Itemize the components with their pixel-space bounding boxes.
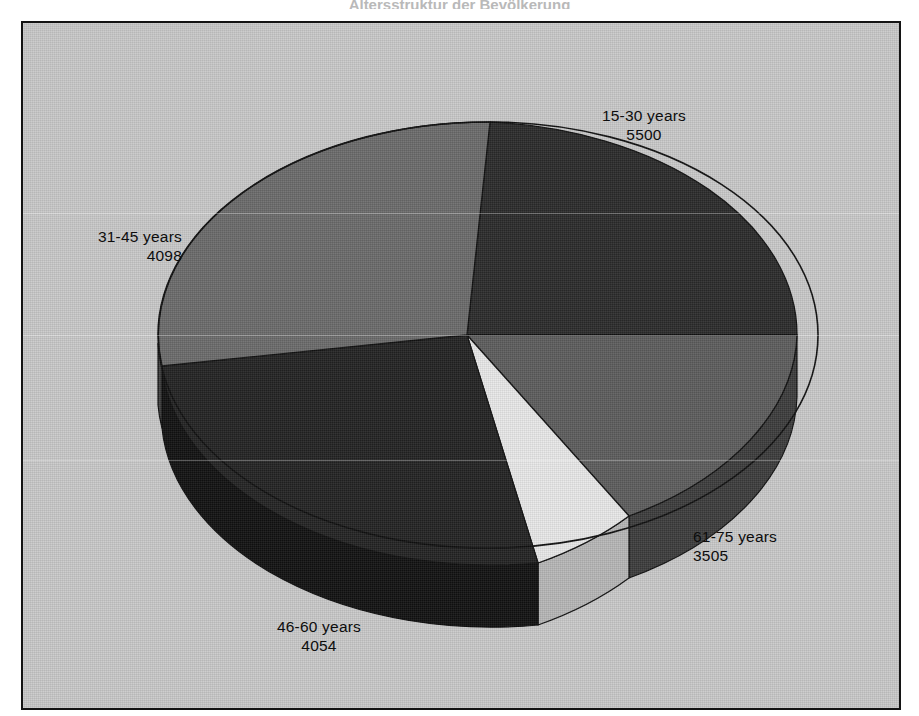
label-61-75-years: 61-75 years 3505: [693, 527, 873, 565]
chart-title-cropped: Altersstruktur der Bevölkerung: [0, 0, 919, 9]
pie-chart-graphic: [23, 23, 901, 710]
pie-chart-page: Altersstruktur der Bevölkerung: [0, 0, 919, 716]
slice-31-45-years[interactable]: [158, 122, 490, 366]
slice-15-30-years[interactable]: [467, 122, 797, 335]
chart-plot-frame: 15-30 years 5500 31-45 years 4098 46-60 …: [21, 21, 901, 710]
label-46-60-years: 46-60 years 4054: [236, 617, 402, 655]
label-15-30-years: 15-30 years 5500: [564, 106, 724, 144]
label-31-45-years: 31-45 years 4098: [21, 227, 182, 265]
